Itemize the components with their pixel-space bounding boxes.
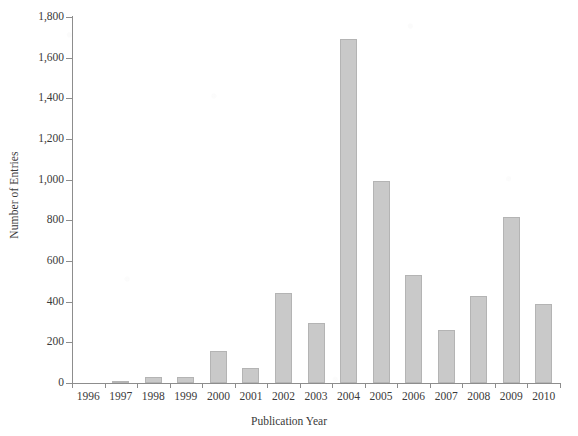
bar-2010 [535,304,552,383]
x-axis-tick [267,383,268,388]
y-axis-tick [66,17,72,18]
x-axis-tick [527,383,528,388]
y-axis-tick-label: 1,800 [2,11,64,23]
bar-2000 [210,351,227,383]
x-axis-tick [202,383,203,388]
y-axis-tick-label: 1,200 [2,133,64,145]
y-axis-tick-label: 0 [2,377,64,389]
bar-1998 [145,377,162,383]
x-axis-tick [300,383,301,388]
bar-2005 [373,181,390,383]
x-axis-tick [560,383,561,388]
x-axis-tick [137,383,138,388]
bar-2008 [470,296,487,383]
y-axis-tick [66,180,72,181]
bar-2007 [438,330,455,383]
y-axis-tick-label: 1,600 [2,52,64,64]
y-axis-tick [66,261,72,262]
x-axis-tick-labels: 1996199719981999200020012002200320042005… [0,391,578,409]
x-axis-line [72,383,561,384]
y-axis-tick-label: 1,400 [2,93,64,105]
x-axis-tick [397,383,398,388]
bar-2006 [405,275,422,383]
bar-2009 [503,217,520,383]
x-axis-tick [365,383,366,388]
y-axis-tick-label: 1,000 [2,174,64,186]
x-axis-tick [170,383,171,388]
x-axis-tick [105,383,106,388]
x-axis-title: Publication Year [0,415,578,427]
x-axis-tick [430,383,431,388]
y-axis-tick-labels: 02004006008001,0001,2001,4001,6001,800 [0,0,64,436]
y-axis-tick [66,98,72,99]
y-axis-tick [66,58,72,59]
bar-1999 [177,377,194,383]
bar-2001 [242,368,259,383]
x-axis-tick [72,383,73,388]
bar-2002 [275,293,292,383]
x-axis-tick [235,383,236,388]
y-axis-tick [66,220,72,221]
x-axis-tick [332,383,333,388]
y-axis-tick [66,302,72,303]
y-axis-tick-label: 200 [2,337,64,349]
bar-chart-figure: Number of Entries 02004006008001,0001,20… [0,0,578,436]
x-axis-tick [495,383,496,388]
plot-area [72,17,560,383]
x-axis-tick [462,383,463,388]
bar-2003 [308,323,325,383]
bar-1997 [112,381,129,383]
bar-2004 [340,39,357,383]
y-axis-tick-label: 600 [2,255,64,267]
y-axis-tick-label: 800 [2,215,64,227]
y-axis-tick [66,139,72,140]
y-axis-tick-label: 400 [2,296,64,308]
x-axis-tick-label-2010: 2010 [521,391,567,403]
y-axis-tick [66,342,72,343]
